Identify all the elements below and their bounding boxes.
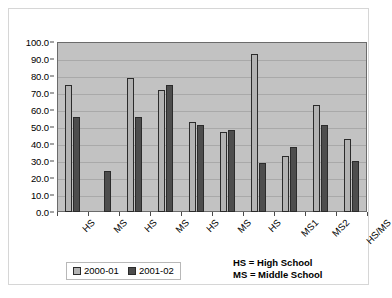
y-axis-tick-mark xyxy=(50,93,54,94)
x-axis-tick-mark xyxy=(150,212,151,216)
x-axis-tick-label: MS1 xyxy=(298,217,320,239)
x-axis-tick-mark xyxy=(212,212,213,216)
y-axis-tick-label: 20.0 xyxy=(31,173,49,184)
x-axis-tick-mark xyxy=(274,212,275,216)
y-axis-tick-label: 10.0 xyxy=(31,190,49,201)
x-axis-tick-mark xyxy=(305,212,306,216)
x-axis-tick-label: HS xyxy=(203,217,220,234)
x-axis-tick-label: HS xyxy=(79,217,96,234)
gridline xyxy=(58,111,366,112)
legend-swatch xyxy=(128,267,136,275)
y-axis-tick-mark xyxy=(50,59,54,60)
legend-label: 2000-01 xyxy=(84,265,119,276)
x-axis-tick-mark xyxy=(57,212,58,216)
gridline xyxy=(58,94,366,95)
y-axis-tick-label: 40.0 xyxy=(31,139,49,150)
annotation-line: HS = High School xyxy=(233,257,322,269)
gridlines xyxy=(58,43,366,211)
x-axis-tick-mark xyxy=(367,212,368,216)
y-axis-tick-label: 50.0 xyxy=(31,122,49,133)
x-axis-tick-label: HS xyxy=(141,217,158,234)
y-axis-tick-mark xyxy=(50,144,54,145)
x-axis-tick-label: MS2 xyxy=(329,217,351,239)
x-axis-tick-label: MS xyxy=(235,217,253,235)
gridline xyxy=(58,179,366,180)
legend-entry: 2000-01 xyxy=(73,265,119,276)
y-axis-tick-mark xyxy=(50,42,54,43)
gridline xyxy=(58,162,366,163)
x-axis-tick-mark xyxy=(336,212,337,216)
y-axis-tick-mark xyxy=(50,195,54,196)
gridline xyxy=(58,196,366,197)
plot-area xyxy=(57,42,367,212)
legend-entry: 2001-02 xyxy=(128,265,174,276)
x-axis-tick-mark xyxy=(181,212,182,216)
x-axis-tick-mark xyxy=(119,212,120,216)
legend-label: 2001-02 xyxy=(139,265,174,276)
chart-annotation: HS = High SchoolMS = Middle School xyxy=(233,257,322,281)
y-axis-tick-mark xyxy=(50,161,54,162)
gridline xyxy=(58,60,366,61)
x-axis-tick-label: MS xyxy=(111,217,129,235)
x-axis-tick-mark xyxy=(88,212,89,216)
y-axis-tick-label: 0.0 xyxy=(36,207,49,218)
y-axis-tick-label: 80.0 xyxy=(31,71,49,82)
y-axis-tick-mark xyxy=(50,110,54,111)
y-axis-tick-label: 30.0 xyxy=(31,156,49,167)
y-axis-tick-mark xyxy=(50,178,54,179)
y-axis-tick-label: 100.0 xyxy=(26,37,49,48)
gridline xyxy=(58,145,366,146)
x-axis-tick-label: HS/MS xyxy=(363,217,392,246)
y-axis-tick-mark xyxy=(50,127,54,128)
y-axis-tick-mark xyxy=(50,212,54,213)
gridline xyxy=(58,77,366,78)
x-axis-tick-label: MS xyxy=(173,217,191,235)
x-axis-labels: HSMSHSMSHSMSHSMS1MS2HS/MS xyxy=(57,217,367,255)
chart-frame: 0.010.020.030.040.050.060.070.080.090.01… xyxy=(8,8,369,285)
legend-swatch xyxy=(73,267,81,275)
y-axis-tick-mark xyxy=(50,76,54,77)
x-axis-tick-label: HS xyxy=(265,217,282,234)
annotation-line: MS = Middle School xyxy=(233,269,322,281)
y-axis: 0.010.020.030.040.050.060.070.080.090.01… xyxy=(9,42,54,212)
y-axis-tick-label: 90.0 xyxy=(31,54,49,65)
chart-legend: 2000-012001-02 xyxy=(66,262,181,280)
gridline xyxy=(58,128,366,129)
y-axis-tick-label: 70.0 xyxy=(31,88,49,99)
x-axis-tick-mark xyxy=(243,212,244,216)
y-axis-tick-label: 60.0 xyxy=(31,105,49,116)
